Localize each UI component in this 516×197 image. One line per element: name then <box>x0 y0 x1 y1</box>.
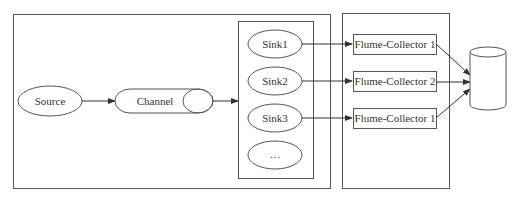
collector-label: Flume-Collector 1 <box>355 38 436 50</box>
channel-node: Channel <box>115 89 213 113</box>
collector-node-1: Flume-Collector 1 <box>354 35 437 55</box>
source-label: Source <box>35 95 66 107</box>
sink-node-2: Sink2 <box>248 67 302 95</box>
sink-label: … <box>270 148 281 160</box>
sink-label: Sink3 <box>262 112 288 124</box>
sink-label: Sink2 <box>262 75 288 87</box>
collector-label: Flume-Collector 2 <box>355 75 436 87</box>
sink-node-more: … <box>248 141 302 169</box>
arrow-collector3-to-storage <box>436 89 470 118</box>
collector-node-3: Flume-Collector 1 <box>354 109 437 129</box>
sink-node-3: Sink3 <box>248 104 302 132</box>
collector-node-2: Flume-Collector 2 <box>354 72 437 92</box>
sink-node-1: Sink1 <box>248 30 302 58</box>
flume-architecture-diagram: Source Channel Sink1 Sink2 Sink3 … Flume… <box>0 0 516 197</box>
source-node: Source <box>18 86 82 116</box>
arrow-collector1-to-storage <box>436 44 470 75</box>
collector-label: Flume-Collector 1 <box>355 112 436 124</box>
channel-label: Channel <box>137 95 174 107</box>
storage-cylinder-icon <box>470 47 506 110</box>
sink-label: Sink1 <box>262 38 288 50</box>
